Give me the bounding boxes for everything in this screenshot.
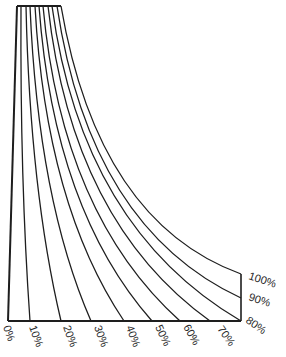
label-40pct: 40%: [124, 324, 143, 349]
label-70pct: 70%: [215, 323, 238, 348]
curve-60pct: [43, 6, 180, 321]
bottom-labels: 0% 10% 20% 30% 40% 50% 60% 70% 80%: [1, 314, 269, 349]
label-20pct: 20%: [61, 324, 80, 349]
label-0pct: 0%: [1, 324, 18, 343]
percentage-fan-diagram: 0% 10% 20% 30% 40% 50% 60% 70% 80% 90% 1…: [0, 0, 286, 357]
left-edge: [8, 6, 17, 321]
curve-50pct: [39, 6, 152, 321]
label-30pct: 30%: [92, 324, 111, 349]
curve-90pct: [57, 6, 241, 298]
curve-100pct: [61, 6, 241, 274]
label-50pct: 50%: [153, 323, 173, 348]
label-80pct: 80%: [244, 314, 269, 337]
curve-80pct: [52, 6, 241, 321]
label-90pct: 90%: [247, 290, 272, 308]
right-labels: 90% 100%: [247, 269, 278, 308]
label-10pct: 10%: [27, 324, 46, 349]
curve-10pct: [21, 6, 30, 321]
fan-curves: [21, 6, 241, 321]
label-100pct: 100%: [247, 269, 278, 289]
label-60pct: 60%: [181, 322, 203, 347]
